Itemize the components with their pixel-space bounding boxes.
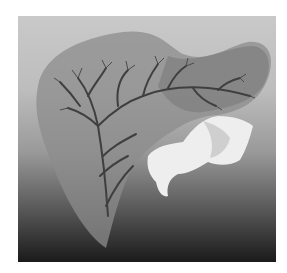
- render-viewport: [18, 16, 276, 262]
- scene: [18, 16, 276, 262]
